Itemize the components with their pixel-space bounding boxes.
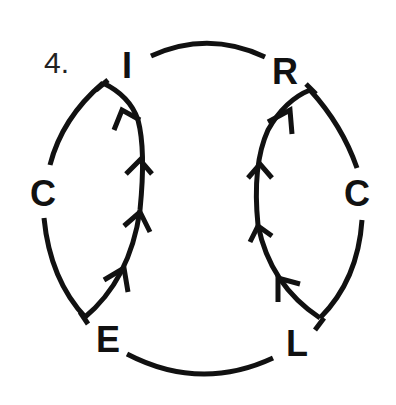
arc-right-lower [320,220,362,318]
letter-top-left: I [122,48,132,84]
letter-top-right: R [272,54,298,90]
circular-word-diagram: 4. I R C C E L [0,0,396,405]
arrowhead-right-4 [268,110,292,134]
letter-bottom-left: E [96,322,120,358]
tick-right-bottom [315,318,324,330]
arrow-path-right [256,90,320,318]
arc-top [151,43,265,57]
arc-left-lower [44,218,86,318]
letter-bottom-right: L [286,326,308,362]
arc-right-upper [310,90,357,168]
letter-right: C [344,176,370,212]
problem-number: 4. [44,48,69,78]
arc-bottom [127,354,273,374]
letter-left: C [30,176,56,212]
arc-left-upper [50,83,103,165]
arrowhead-left-3 [126,160,152,174]
